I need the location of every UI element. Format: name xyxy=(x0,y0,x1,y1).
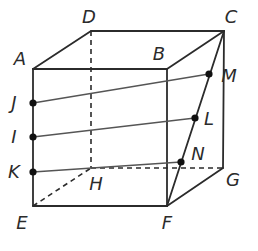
point-label-n: N xyxy=(191,145,204,163)
point-m xyxy=(205,70,212,77)
point-label-l: L xyxy=(204,110,214,128)
point-label-k: K xyxy=(8,163,20,181)
vertex-label-c: C xyxy=(225,8,238,26)
vertex-label-g: G xyxy=(226,171,240,189)
edge-bc xyxy=(167,31,224,69)
point-label-m: M xyxy=(221,67,237,85)
segment-jm xyxy=(33,74,209,103)
segment-kn xyxy=(33,162,181,172)
vertex-label-e: E xyxy=(16,214,27,232)
point-label-i: I xyxy=(11,128,16,146)
edge-fg xyxy=(167,168,223,206)
edge-cg xyxy=(223,31,224,168)
point-j xyxy=(29,99,36,106)
vertex-label-h: H xyxy=(89,175,103,193)
vertex-label-a: A xyxy=(14,50,26,68)
point-l xyxy=(191,114,198,121)
cube-figure xyxy=(0,0,258,251)
edge-ad xyxy=(33,31,91,69)
vertex-label-f: F xyxy=(162,214,172,232)
vertex-label-b: B xyxy=(153,45,165,63)
point-i xyxy=(29,133,36,140)
point-label-j: J xyxy=(11,94,16,112)
vertex-label-d: D xyxy=(82,8,96,26)
cube-diagram: A B C D E F G H J I K M L N xyxy=(0,0,258,251)
hidden-edge-eh xyxy=(33,168,91,206)
segment-il xyxy=(33,118,195,137)
point-n xyxy=(177,158,184,165)
point-k xyxy=(29,168,36,175)
